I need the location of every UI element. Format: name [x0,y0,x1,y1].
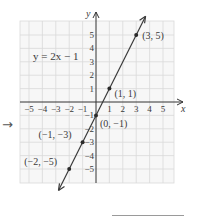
y-axis-label: y [85,8,91,19]
data-point [107,87,111,91]
point-label: (0, −1) [100,118,127,130]
x-tick-label: 2 [121,104,126,114]
data-point [81,140,85,144]
y-tick-label: −3 [84,137,94,147]
y-tick-label: 1 [90,84,95,94]
data-point [67,167,71,171]
data-point [94,113,98,117]
y-tick-label: −5 [84,164,94,174]
point-label: (−2, −5) [24,156,57,168]
data-point [134,33,138,37]
x-tick-label: −3 [51,104,61,114]
point-label: (1, 1) [114,88,136,100]
y-tick-label: 3 [90,57,95,67]
x-tick-label: −4 [38,104,48,114]
x-axis-label: x [180,103,186,114]
x-tick-label: 1 [107,104,112,114]
x-tick-label: 3 [134,104,139,114]
y-tick-label: 4 [90,43,95,53]
graph-figure: −5−4−3−2−112345−5−4−3−2−112345 (3, 5)(1,… [0,0,197,222]
point-label: (−1, −3) [39,129,72,141]
answer-rule-line [112,215,184,216]
y-tick-label: −1 [84,110,94,120]
y-tick-label: 5 [90,30,95,40]
y-tick-label: 2 [90,70,95,80]
y-tick-label: −4 [84,151,94,161]
x-tick-label: −5 [24,104,34,114]
x-tick-label: 5 [161,104,166,114]
point-label: (3, 5) [142,30,164,42]
equation-label: y = 2x − 1 [33,50,78,62]
x-tick-label: 4 [147,104,152,114]
pointer-arrow-icon: → [2,117,13,132]
x-tick-label: −2 [64,104,74,114]
